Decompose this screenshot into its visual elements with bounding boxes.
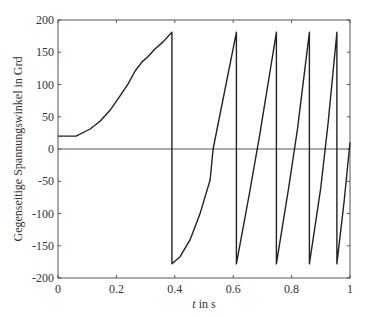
y-tick-label: -150 — [32, 239, 54, 253]
y-axis-label: Gegenseitige Spannungswinkel in Grd — [11, 57, 25, 242]
y-tick-label: 100 — [36, 78, 54, 92]
x-tick-label: 0.4 — [167, 282, 182, 296]
y-tick-label: 150 — [36, 45, 54, 59]
y-tick-label: 0 — [48, 142, 54, 156]
x-tick-label: 0.2 — [109, 282, 124, 296]
y-tick-label: 50 — [42, 110, 54, 124]
y-tick-label: 200 — [36, 13, 54, 27]
x-tick-label: 0.8 — [284, 282, 299, 296]
x-tick-label: 0.6 — [226, 282, 241, 296]
y-tick-label: -100 — [32, 207, 54, 221]
x-tick-label: 0 — [55, 282, 61, 296]
y-tick-label: -50 — [38, 174, 54, 188]
x-axis-label: t in s — [192, 297, 216, 311]
x-tick-label: 1 — [347, 282, 353, 296]
x-axis-label-unit: in s — [196, 297, 216, 311]
chart: 00.20.40.60.81 200150100500-50-100-150-2… — [0, 0, 366, 317]
y-tick-label: -200 — [32, 271, 54, 285]
